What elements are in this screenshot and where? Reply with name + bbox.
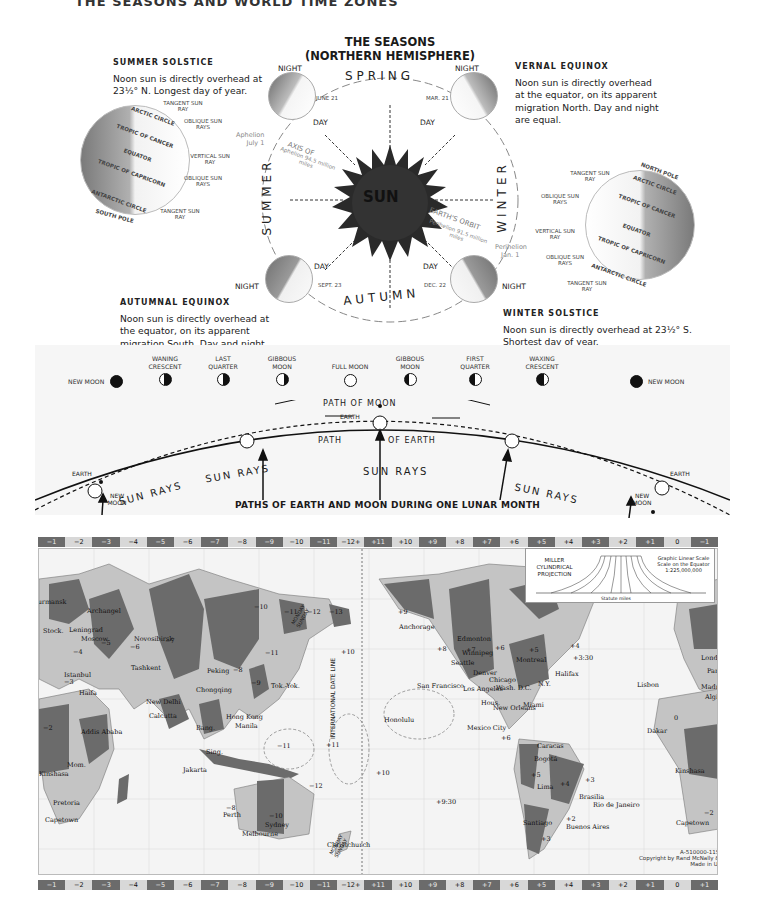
city-label: Rio de Janeiro: [593, 801, 640, 809]
time-zone-cell: +4: [555, 537, 582, 547]
vernal-equinox-caption: VERNAL EQUINOX Noon sun is directly over…: [515, 61, 660, 127]
city-label: Wash. D.C.: [496, 684, 532, 692]
zone-offset-label: −6: [130, 643, 140, 651]
date-december: DEC. 22: [424, 282, 446, 288]
winter-ray-vertical: VERTICAL SUN RAY: [535, 228, 575, 240]
moon-phase-label: GIBBOUS MOON: [262, 355, 302, 370]
moon-phase-label: GIBBOUS MOON: [390, 355, 430, 370]
time-zone-cell: −3: [92, 537, 119, 547]
time-zone-cell: +6: [500, 880, 527, 890]
globe-march: [450, 72, 498, 120]
perihelion-line2: Jan. 1: [495, 251, 527, 259]
city-label: Mexico City: [467, 724, 506, 732]
winter-solstice-heading: WINTER SOLSTICE: [503, 308, 693, 321]
city-label: London: [701, 654, 718, 662]
vernal-equinox-text: Noon sun is directly overhead at the equ…: [515, 77, 660, 127]
projection-inset: MILLER CYLINDRICAL PROJECTION Graphic Li…: [525, 548, 715, 603]
time-zone-cell: −12+: [337, 537, 364, 547]
city-label: Perth: [223, 811, 241, 819]
path-of-earth-label-2: OF EARTH: [388, 436, 436, 445]
zone-offset-label: −2: [704, 809, 714, 817]
city-label: Manila: [235, 722, 258, 730]
zone-offset-label: +3:30: [573, 654, 593, 662]
winter-ray-tangent-bottom: TANGENT SUN RAY: [567, 280, 607, 292]
moon-phase-gibbous-1: GIBBOUS MOON: [262, 355, 302, 388]
city-label: New Delhi: [146, 698, 181, 706]
new-moon-icon: [630, 375, 643, 388]
time-zone-cell: −4: [120, 537, 147, 547]
zone-offset-label: −12: [309, 782, 323, 790]
time-zone-cell: 0: [664, 880, 691, 890]
city-label: Lima: [537, 783, 553, 791]
summer-solstice-text: Noon sun is directly overhead at 23½° N.…: [113, 73, 263, 98]
last-quarter-icon: [217, 373, 230, 386]
zone-offset-label: +10: [376, 769, 390, 777]
city-label: Bang.: [196, 724, 215, 732]
zone-offset-label: +7: [466, 646, 476, 654]
season-spring-label: SPRING: [345, 69, 414, 83]
night-label-september: NIGHT: [235, 282, 259, 291]
city-label: Algiers: [705, 693, 718, 701]
aphelion-label: Aphelion July 1: [236, 131, 264, 147]
time-zone-ruler-top: −1−2−3−4−5−6−7−8−9−10−11−12++11+10+9+8+7…: [38, 537, 718, 547]
zone-offset-label: −4: [73, 648, 83, 656]
zone-offset-label: −7: [165, 637, 175, 645]
time-zone-cell: −5: [147, 880, 174, 890]
aphelion-line1: Aphelion: [236, 131, 264, 139]
day-label-march: DAY: [420, 118, 435, 127]
city-label: Christchurch: [327, 841, 370, 849]
winter-ray-oblique-bottom: OBLIQUE SUN RAYS: [545, 254, 585, 266]
time-zone-cell: −9: [256, 537, 283, 547]
zone-offset-label: +3: [585, 776, 595, 784]
first-quarter-icon: [469, 373, 482, 386]
city-label: Miami: [523, 701, 544, 709]
city-label: Kinshasa: [39, 770, 69, 778]
time-zone-cell: +3: [582, 880, 609, 890]
time-zone-cell: −10: [283, 537, 310, 547]
city-label: Santiago: [523, 819, 552, 827]
zone-offset-label: +9:30: [436, 798, 456, 806]
zone-offset-label: +10: [341, 648, 355, 656]
time-zone-cell: −1: [691, 537, 718, 547]
perihelion-line1: Perihelion: [495, 243, 527, 251]
city-label: Caracas: [537, 742, 564, 750]
night-label-june: NIGHT: [278, 64, 302, 73]
time-zone-cell: −11: [310, 880, 337, 890]
winter-solstice-caption: WINTER SOLSTICE Noon sun is directly ove…: [503, 308, 693, 349]
city-label: Tok.-Yok.: [271, 682, 300, 690]
city-label: Bogotá: [534, 755, 557, 763]
city-label: Halifax: [555, 670, 579, 678]
zone-offset-label: −11: [265, 649, 279, 657]
city-label: Chicago: [489, 676, 516, 684]
city-label: N.Y.: [538, 680, 551, 688]
zone-offset-label: +6: [495, 644, 505, 652]
gibbous-moon-icon: [404, 373, 417, 386]
perihelion-label: Perihelion Jan. 1: [495, 243, 527, 259]
sun-rays-label-2: SUN RAYS: [363, 466, 428, 477]
season-summer-label: SUMMER: [260, 158, 274, 235]
earth-label-right: EARTH: [670, 470, 690, 477]
city-label: Murmansk: [38, 598, 66, 606]
time-zone-cell: +3: [582, 537, 609, 547]
time-zone-cell: −7: [201, 537, 228, 547]
zone-offset-label: −8: [226, 804, 236, 812]
zone-offset-label: +6: [501, 734, 511, 742]
day-label-september: DAY: [314, 262, 329, 271]
city-label: Peking: [207, 667, 229, 675]
city-label: Buenos Aires: [566, 823, 609, 831]
city-label: Madrid: [701, 683, 718, 691]
moon-phase-full: FULL MOON: [325, 363, 375, 388]
new-moon-icon: [110, 375, 123, 388]
city-label: Edmonton: [457, 635, 491, 643]
city-label: Brasilia: [579, 793, 604, 801]
moon-phase-label: WAXING CRESCENT: [517, 355, 567, 370]
time-zone-cell: +8: [446, 880, 473, 890]
zone-offset-label: −11: [277, 742, 291, 750]
seasons-title-line1: THE SEASONS: [290, 35, 490, 49]
moon-phase-first-quarter: FIRST QUARTER: [455, 355, 495, 388]
time-zone-cell: −4: [120, 880, 147, 890]
moon-phase-waxing-crescent: WAXING CRESCENT: [517, 355, 567, 388]
time-zone-cell: −7: [201, 880, 228, 890]
path-of-earth-label-1: PATH: [318, 436, 342, 445]
time-zone-cell: +7: [473, 880, 500, 890]
